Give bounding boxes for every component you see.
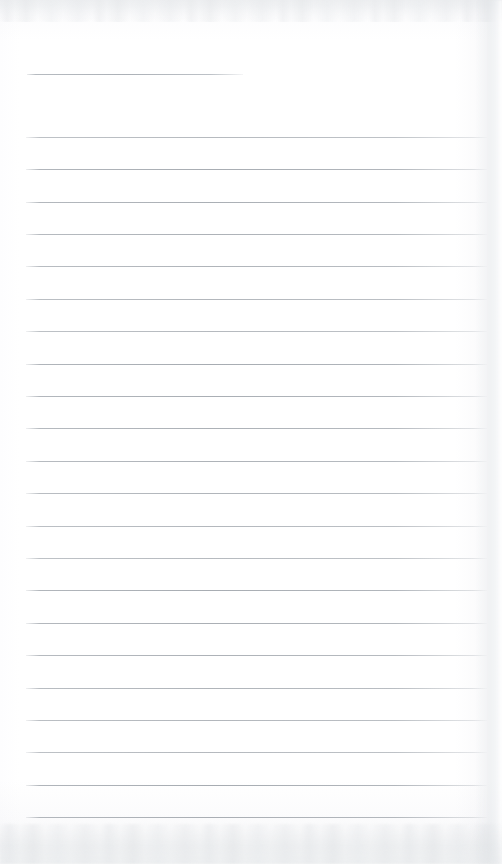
- body-rule: [26, 266, 487, 267]
- paper-surface: [0, 0, 502, 864]
- body-rule: [26, 364, 487, 365]
- body-rule: [26, 817, 487, 818]
- scan-shadow-right-edge: [476, 0, 502, 864]
- scan-noise-band-bottom: [0, 824, 502, 864]
- body-rule: [26, 590, 487, 591]
- body-rule: [26, 752, 487, 753]
- body-rule: [26, 688, 487, 689]
- body-rule: [26, 169, 487, 170]
- body-rule: [26, 137, 487, 138]
- body-rule: [26, 493, 487, 494]
- body-rule: [26, 396, 487, 397]
- body-rule: [26, 202, 487, 203]
- scan-noise-band-top: [0, 0, 502, 22]
- body-rule: [26, 428, 487, 429]
- body-rule: [26, 461, 487, 462]
- body-rule: [26, 299, 487, 300]
- body-rule: [26, 720, 487, 721]
- body-rule: [26, 785, 487, 786]
- header-rule: [27, 74, 243, 75]
- body-rule: [26, 331, 487, 332]
- scanned-page: [0, 0, 502, 864]
- body-rule: [26, 234, 487, 235]
- body-rule: [26, 558, 487, 559]
- body-rule: [26, 526, 487, 527]
- body-rule: [26, 623, 487, 624]
- body-rule: [26, 655, 487, 656]
